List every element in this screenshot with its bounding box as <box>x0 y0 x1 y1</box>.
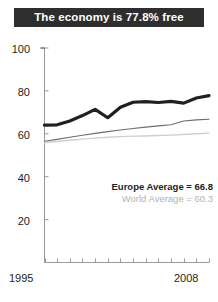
plot-area <box>0 0 218 302</box>
plot-svg <box>0 0 218 302</box>
chart-container: The economy is 77.8% free 100 80 60 40 2… <box>0 0 218 302</box>
x-axis-ticks <box>46 259 210 263</box>
legend-europe-average: Europe Average = 66.8 <box>101 181 213 193</box>
axis-lines <box>45 48 210 263</box>
legend-world-average: World Average = 60.3 <box>101 193 213 205</box>
legend: Europe Average = 66.8 World Average = 60… <box>101 181 213 204</box>
data-series-group <box>45 96 210 143</box>
series-line-world-average <box>45 133 210 143</box>
